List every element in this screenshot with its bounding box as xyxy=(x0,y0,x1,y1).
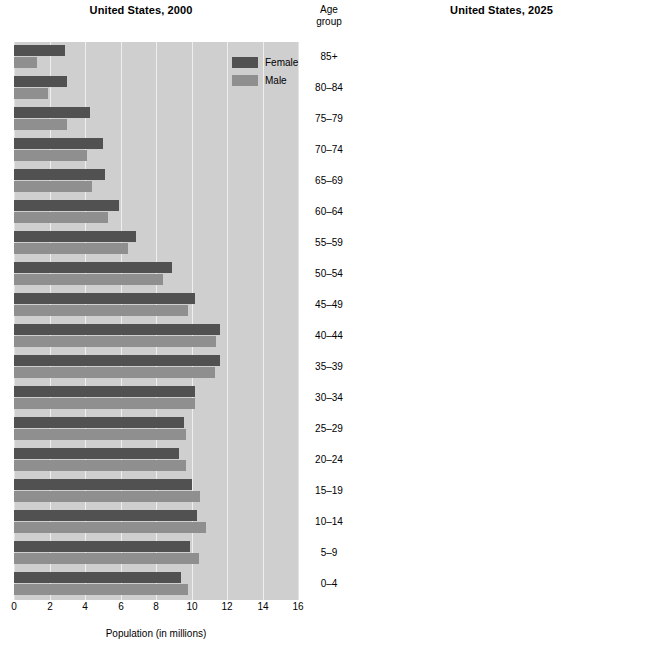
x-tick-label: 6 xyxy=(118,601,124,612)
x-axis-label-2000: Population (in millions) xyxy=(14,628,298,639)
bar-female xyxy=(14,107,90,118)
bar-male xyxy=(14,429,186,440)
bar-female xyxy=(14,169,105,180)
bar-male xyxy=(14,336,216,347)
x-tick-label: 10 xyxy=(186,601,197,612)
bar-female xyxy=(14,231,136,242)
x-tick-label: 14 xyxy=(257,601,268,612)
bar-group-row xyxy=(14,383,298,414)
bar-female xyxy=(14,417,184,428)
bar-group-row xyxy=(14,290,298,321)
bar-male xyxy=(14,522,206,533)
bar-group-row xyxy=(14,135,298,166)
bar-group-row xyxy=(14,445,298,476)
bar-group-row xyxy=(14,321,298,352)
legend-2000: FemaleMale xyxy=(232,54,298,90)
bar-female xyxy=(14,45,65,56)
bar-female xyxy=(14,448,179,459)
bar-male xyxy=(14,57,37,68)
chart-title-2000: United States, 2000 xyxy=(0,4,296,16)
bar-female xyxy=(14,386,195,397)
bar-male xyxy=(14,367,215,378)
bar-group-row xyxy=(14,476,298,507)
bar-group-row xyxy=(14,166,298,197)
bar-group-row xyxy=(14,259,298,290)
bar-group-row xyxy=(14,414,298,445)
x-tick-label: 12 xyxy=(221,601,232,612)
bar-female xyxy=(14,541,190,552)
x-axis-ticks-2000: 0246810121416 xyxy=(14,601,298,617)
bar-male xyxy=(14,243,128,254)
bar-group-row xyxy=(14,228,298,259)
bar-group-row xyxy=(14,538,298,569)
bar-male xyxy=(14,553,199,564)
legend-label-male: Male xyxy=(265,75,287,86)
bar-group-row xyxy=(14,507,298,538)
bar-female xyxy=(14,262,172,273)
bar-male xyxy=(14,150,87,161)
bar-male xyxy=(14,584,188,595)
bar-male xyxy=(14,460,186,471)
bar-male xyxy=(14,274,163,285)
bar-female xyxy=(14,355,220,366)
plot-area-2000 xyxy=(14,42,298,600)
bar-female xyxy=(14,76,67,87)
bar-male xyxy=(14,119,67,130)
bar-group-row xyxy=(14,104,298,135)
bar-male xyxy=(14,398,195,409)
chart-title-2025: United States, 2025 xyxy=(345,4,658,16)
population-pyramid-figure: United States, 2000 FemaleMale 024681012… xyxy=(0,0,658,656)
legend-swatch-female xyxy=(232,57,258,68)
x-tick-label: 0 xyxy=(11,601,17,612)
bar-female xyxy=(14,293,195,304)
legend-item: Female xyxy=(232,54,298,70)
bar-male xyxy=(14,181,92,192)
gridline xyxy=(298,42,299,600)
bar-male xyxy=(14,491,200,502)
x-tick-label: 8 xyxy=(153,601,159,612)
bar-female xyxy=(14,572,181,583)
legend-swatch-male xyxy=(232,75,258,86)
bar-group-row xyxy=(14,352,298,383)
bar-female xyxy=(14,479,192,490)
bar-female xyxy=(14,138,103,149)
x-tick-label: 2 xyxy=(47,601,53,612)
chart-panel-2025: United States, 2025 FemaleMale 024681012… xyxy=(345,0,658,656)
bar-male xyxy=(14,212,108,223)
legend-item: Male xyxy=(232,72,298,88)
x-tick-label: 4 xyxy=(82,601,88,612)
bar-male xyxy=(14,88,48,99)
bar-female xyxy=(14,324,220,335)
chart-panel-2000: United States, 2000 FemaleMale 024681012… xyxy=(0,0,310,656)
bar-male xyxy=(14,305,188,316)
legend-label-female: Female xyxy=(265,57,298,68)
bar-group-row xyxy=(14,197,298,228)
bar-female xyxy=(14,200,119,211)
bar-group-row xyxy=(14,569,298,600)
bar-female xyxy=(14,510,197,521)
